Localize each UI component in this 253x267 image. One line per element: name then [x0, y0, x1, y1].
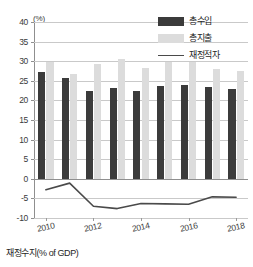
y-tick-label: 35 [6, 37, 28, 47]
y-tick-label: 10 [6, 135, 28, 145]
legend-label-expenditure: 총지출 [189, 34, 212, 43]
legend-item-expenditure: 총지출 [158, 31, 250, 46]
x-tick-mark [189, 218, 190, 221]
x-tick-label-2010: 2010 [36, 220, 55, 233]
legend-swatch-deficit-line-icon [158, 51, 184, 60]
fiscal-balance-chart: (%) 20102012201420162018 403530252015105… [0, 0, 253, 267]
x-tick-label-2016: 2016 [179, 220, 198, 233]
y-tick-label: 15 [6, 115, 28, 125]
y-tick-label: 40 [6, 17, 28, 27]
y-tick-label: 30 [6, 56, 28, 66]
deficit-line [46, 183, 236, 208]
legend-swatch-expenditure-icon [158, 34, 184, 43]
x-tick-label-2018: 2018 [226, 220, 245, 233]
y-tick-label: 20 [6, 95, 28, 105]
x-tick-label-2014: 2014 [131, 220, 150, 233]
legend-swatch-revenue-icon [158, 17, 184, 26]
y-tick-label: 25 [6, 76, 28, 86]
y-tick-label: 0 [6, 174, 28, 184]
chart-legend: 총수입 총지출 재정적자 [158, 14, 250, 65]
y-tick-label: -5 [6, 193, 28, 203]
x-tick-label-2012: 2012 [83, 220, 102, 233]
legend-item-revenue: 총수입 [158, 14, 250, 29]
legend-item-deficit: 재정적자 [158, 48, 250, 63]
chart-caption: 재정수지(% of GDP) [6, 246, 78, 259]
y-tick-label: -10 [6, 213, 28, 223]
legend-label-deficit: 재정적자 [189, 51, 219, 60]
y-tick-label: 5 [6, 154, 28, 164]
y-tick-mark [31, 218, 34, 219]
legend-label-revenue: 총수입 [189, 17, 212, 26]
